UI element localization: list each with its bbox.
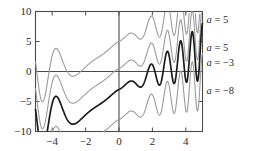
curve-label-value: 5: [223, 42, 228, 53]
curve-label-2: a = −3: [207, 58, 235, 69]
curve-label-value: −8: [223, 85, 234, 96]
y-tick-label: 0: [26, 66, 32, 77]
y-tick-label: 5: [26, 36, 32, 47]
curve-3: [53, 54, 203, 132]
y-tick-label: 10: [21, 6, 32, 17]
axis-lines: [36, 12, 203, 132]
curve-label-value: 5: [223, 14, 228, 25]
curve-label-value: −3: [223, 57, 234, 68]
x-tick-label: 4: [166, 136, 206, 147]
curve-label-equals: =: [212, 85, 223, 96]
curve-label-equals: =: [212, 57, 223, 68]
curve-label-0: a = 5: [207, 15, 229, 26]
y-tick-label: −10: [14, 126, 31, 137]
curve-label-1: a = 5: [207, 43, 229, 54]
curve-label-equals: =: [212, 14, 223, 25]
curve-0: [36, 12, 200, 102]
y-tick-label: −5: [20, 96, 32, 107]
chart-figure: 1050−5−10 −4−2024 a = 5a = 5a = −3a = −8: [0, 0, 253, 151]
curve-label-equals: =: [212, 42, 223, 53]
curve-label-3: a = −8: [207, 86, 235, 97]
